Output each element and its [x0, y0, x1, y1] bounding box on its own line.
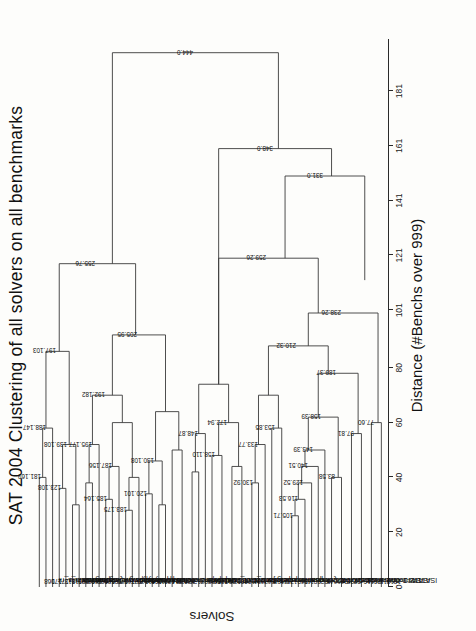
merge-height-label: 158.110	[192, 451, 215, 457]
merge-height-label: 130.108	[130, 457, 153, 463]
merge-height-label: 123.108	[37, 484, 60, 490]
x-axis-tick	[388, 586, 393, 587]
dendrogram-link	[156, 412, 179, 461]
dendrogram-link	[92, 395, 122, 444]
merge-height-label: 140.51	[288, 462, 308, 468]
merge-height-label: 238.26	[322, 309, 342, 315]
dendrogram-link	[302, 466, 319, 587]
dendrogram-link	[149, 461, 162, 505]
y-axis-label-text: Solvers	[189, 609, 234, 624]
merge-height-label: 97.81	[338, 429, 354, 435]
dendrogram-link	[59, 488, 66, 587]
merge-height-label: 188.147	[23, 424, 46, 430]
dendrogram-link	[39, 477, 46, 587]
merge-height-label: 130.92	[234, 478, 254, 484]
merge-height-label: 133.77	[239, 440, 259, 446]
merge-height-label: 259.26	[247, 254, 267, 260]
chart-title: SAT 2004 Clustering of all solvers on al…	[6, 0, 27, 631]
merge-height-label: 129.52	[283, 478, 303, 484]
y-axis-label: Solvers	[36, 607, 388, 625]
x-axis-tick	[388, 145, 393, 146]
x-axis-tick	[388, 254, 393, 255]
merge-height-label: 195.177	[69, 440, 92, 446]
merge-height-label: 77.60	[358, 418, 374, 424]
x-axis-line	[388, 39, 389, 587]
dendrogram-link	[255, 445, 265, 587]
dendrogram-link	[63, 445, 76, 505]
merge-height-label: 120.101	[124, 489, 147, 495]
dendrogram-figure-rotated: SAT 2004 Clustering of all solvers on al…	[0, 0, 476, 631]
dendrogram-link	[146, 494, 153, 587]
merge-height-label: 255.76	[76, 259, 96, 265]
x-axis-tick-label: 121	[394, 248, 404, 262]
dendrogram-figure: SAT 2004 Clustering of all solvers on al…	[0, 0, 476, 631]
merge-height-label: 105.71	[273, 511, 293, 517]
dendrogram-link	[252, 483, 259, 587]
merge-height-label: 172.94	[207, 418, 227, 424]
dendrogram-link	[112, 423, 132, 478]
dendrogram-link	[43, 428, 53, 587]
leaf-label: lSAT1	[417, 577, 437, 584]
x-axis-tick	[388, 531, 393, 532]
merge-height-label: 139.108	[44, 440, 67, 446]
x-axis-tick-label: 101	[394, 303, 404, 317]
x-axis-tick-label: 0	[394, 585, 404, 590]
x-axis-tick	[388, 90, 393, 91]
x-axis-title: Distance (#Benchs over 999)	[408, 0, 425, 631]
merge-height-label: 116.53	[279, 495, 298, 501]
x-axis-tick	[388, 200, 393, 201]
dendrogram-link	[46, 351, 69, 444]
dendrogram-link	[272, 428, 282, 587]
dendrogram-link	[73, 505, 80, 587]
dendrogram-link	[109, 466, 119, 587]
x-axis-tick-label: 80	[394, 363, 404, 372]
x-axis-tick	[388, 367, 393, 368]
merge-height-label: 158.39	[302, 413, 322, 419]
dendrogram-link	[305, 450, 325, 587]
leaf-number: 22	[354, 577, 361, 584]
leaf-number: 13	[393, 577, 400, 584]
merge-height-label: 181.169	[18, 473, 41, 479]
merge-height-label: 197.103	[32, 347, 55, 353]
merge-height-label: 83.58	[319, 473, 335, 479]
dendrogram-link	[332, 477, 342, 587]
dendrogram-link	[371, 423, 381, 587]
merge-height-label: 153.85	[255, 424, 275, 430]
merge-height-label: 183.175	[104, 506, 127, 512]
dendrogram-link	[212, 455, 222, 587]
x-axis-tick-label: 141	[394, 194, 404, 208]
merge-height-label: 148.87	[179, 429, 199, 435]
x-axis-tick-label: 60	[394, 418, 404, 427]
merge-height-label: 185.164	[84, 495, 107, 501]
merge-height-label: 205.95	[117, 331, 137, 337]
dendrogram-link	[295, 499, 305, 587]
merge-height-label: 187.156	[89, 462, 112, 468]
x-axis-tick	[388, 422, 393, 423]
dendrogram-link	[59, 264, 135, 352]
merge-height-label: 143.39	[293, 446, 313, 452]
dendrogram-link	[112, 335, 165, 412]
dendrogram-link	[351, 434, 361, 587]
x-axis-tick-label: 181	[394, 84, 404, 98]
merge-height-label: 189.37	[317, 369, 337, 375]
dendrogram-link	[199, 384, 229, 433]
dendrogram-link	[159, 505, 166, 587]
x-axis-tick-label: 20	[394, 527, 404, 536]
merge-height-label: 210.32	[277, 341, 297, 347]
dendrogram-link	[172, 450, 182, 587]
dendrogram-link	[258, 395, 278, 444]
dendrogram-link	[192, 472, 199, 587]
merge-height-label: 192.182	[82, 391, 105, 397]
x-axis-tick	[388, 476, 393, 477]
dendrogram-link	[112, 53, 278, 264]
x-axis-tick-label: 40	[394, 473, 404, 482]
merge-height-label: 444.0	[177, 48, 193, 54]
merge-height-label: 348.0	[257, 144, 273, 150]
merge-height-label: 331.0	[307, 172, 323, 178]
x-axis-tick	[388, 309, 393, 310]
dendrogram-link	[285, 176, 365, 280]
x-axis-tick-label: 161	[394, 139, 404, 153]
x-axis: 020406080101121141161181	[388, 39, 408, 587]
